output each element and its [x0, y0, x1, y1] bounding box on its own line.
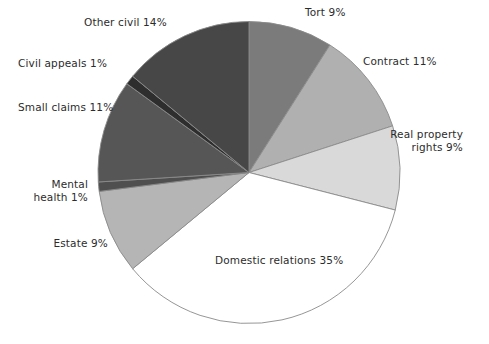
pie-slices-group	[98, 21, 400, 323]
pie-chart-figure: Tort 9% Contract 11% Real property right…	[0, 0, 489, 344]
pie-label-civil-appeals: Civil appeals 1%	[18, 57, 107, 70]
pie-label-estate: Estate 9%	[28, 237, 108, 250]
pie-label-domestic-relations: Domestic relations 35%	[215, 254, 343, 267]
pie-label-other-civil: Other civil 14%	[84, 16, 167, 29]
pie-label-mental-health-line2: health 1%	[20, 191, 88, 204]
pie-label-tort: Tort 9%	[305, 6, 346, 19]
pie-chart-canvas	[0, 0, 489, 344]
pie-label-real-property-rights-line1: Real property	[378, 128, 463, 141]
pie-label-contract: Contract 11%	[363, 55, 437, 68]
pie-label-real-property-rights-line2: rights 9%	[378, 141, 463, 154]
pie-label-small-claims: Small claims 11%	[18, 101, 113, 114]
pie-label-mental-health-line1: Mental	[20, 178, 88, 191]
